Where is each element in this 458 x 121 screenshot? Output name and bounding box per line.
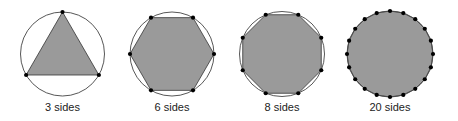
panel-6-sides [128, 12, 216, 96]
panel-label-20-sides: 20 sides [350, 101, 430, 114]
vertex-dot [191, 88, 195, 92]
vertex-dot [431, 52, 435, 56]
vertex-dot [413, 87, 417, 91]
panel-3-sides [21, 10, 105, 96]
vertex-dot [24, 73, 28, 77]
vertex-dot [149, 16, 153, 20]
panel-label-8-sides: 8 sides [242, 101, 322, 114]
vertex-dot [191, 16, 195, 20]
panel-8-sides [240, 12, 325, 97]
vertex-dot [319, 36, 323, 40]
polygon-shape [130, 18, 214, 91]
vertex-dot [296, 91, 300, 95]
vertex-dot [375, 93, 379, 97]
panel-20-sides [345, 9, 435, 99]
vertex-dot [264, 91, 268, 95]
vertex-dot [241, 36, 245, 40]
vertex-dot [388, 9, 392, 13]
vertex-dot [375, 11, 379, 15]
vertex-dot [345, 52, 349, 56]
vertex-dot [353, 77, 357, 81]
polygon-shape [243, 15, 322, 94]
vertex-dot [363, 17, 367, 21]
vertex-dot [429, 39, 433, 43]
vertex-dot [347, 65, 351, 69]
vertex-dot [128, 52, 132, 56]
panel-label-6-sides: 6 sides [132, 101, 212, 114]
vertex-dot [423, 77, 427, 81]
vertex-dot [319, 68, 323, 72]
vertex-dot [264, 13, 268, 17]
vertex-dot [60, 10, 64, 14]
vertex-dot [363, 87, 367, 91]
vertex-dot [401, 11, 405, 15]
polygon-shape [26, 12, 99, 75]
vertex-dot [149, 88, 153, 92]
panel-label-3-sides: 3 sides [23, 101, 103, 114]
vertex-dot [241, 68, 245, 72]
vertex-dot [401, 93, 405, 97]
vertex-dot [429, 65, 433, 69]
vertex-dot [97, 73, 101, 77]
vertex-dot [388, 95, 392, 99]
vertex-dot [353, 27, 357, 31]
vertex-dot [212, 52, 216, 56]
vertex-dot [413, 17, 417, 21]
vertex-dot [296, 13, 300, 17]
vertex-dot [347, 39, 351, 43]
vertex-dot [423, 27, 427, 31]
